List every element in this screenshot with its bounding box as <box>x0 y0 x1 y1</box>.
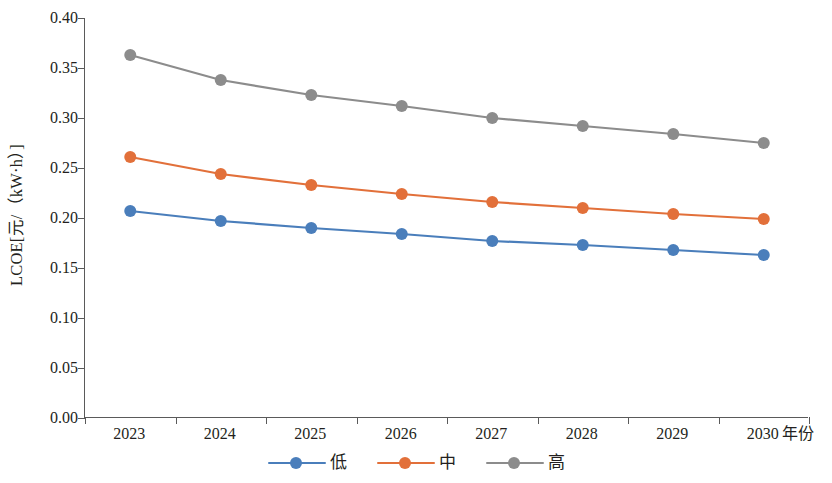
x-axis-tick <box>719 417 720 424</box>
y-tick-label: 0.15 <box>32 260 78 276</box>
legend-swatch <box>268 456 326 470</box>
y-axis-tick <box>78 318 85 319</box>
legend-marker-icon <box>399 457 411 469</box>
y-tick-label: 0.10 <box>32 310 78 326</box>
data-point <box>758 213 770 225</box>
y-axis-tick <box>78 18 85 19</box>
x-tick-label: 2027 <box>451 424 531 443</box>
x-tick-label: 2026 <box>361 424 441 443</box>
data-point <box>124 151 136 163</box>
x-axis-tick <box>628 417 629 424</box>
x-axis-tick <box>176 417 177 424</box>
data-point <box>396 188 408 200</box>
line-chart: LCOE[元/（kW·h）] 0.400.350.300.250.200.150… <box>0 0 832 483</box>
data-point <box>396 228 408 240</box>
plot-area <box>85 18 808 417</box>
x-axis-tick <box>266 417 267 424</box>
y-axis-tick-labels: 0.400.350.300.250.200.150.100.050.00 <box>28 0 78 483</box>
legend-marker-icon <box>508 457 520 469</box>
x-axis-tick <box>85 417 86 424</box>
data-point <box>758 137 770 149</box>
x-tick-label: 2023 <box>89 424 169 443</box>
plot-frame <box>84 18 808 418</box>
data-point <box>486 112 498 124</box>
y-axis-tick <box>78 368 85 369</box>
y-tick-label: 0.00 <box>32 410 78 426</box>
series-lines <box>85 18 809 418</box>
legend-swatch <box>486 456 544 470</box>
y-axis-tick <box>78 168 85 169</box>
chart-legend: 低中高 <box>0 454 832 471</box>
x-tick-label: 2029 <box>632 424 712 443</box>
data-point <box>486 196 498 208</box>
y-tick-label: 0.05 <box>32 360 78 376</box>
data-point <box>758 249 770 261</box>
series-1 <box>124 151 770 225</box>
data-point <box>577 239 589 251</box>
series-line <box>130 157 764 219</box>
x-axis-tick <box>538 417 539 424</box>
x-tick-label: 2025 <box>270 424 350 443</box>
data-point <box>215 168 227 180</box>
legend-item[interactable]: 高 <box>486 454 565 471</box>
data-point <box>667 128 679 140</box>
y-tick-label: 0.30 <box>32 110 78 126</box>
y-axis-title: LCOE[元/（kW·h）] <box>0 0 30 430</box>
y-tick-label: 0.35 <box>32 60 78 76</box>
data-point <box>577 202 589 214</box>
series-2 <box>124 49 770 149</box>
x-axis-tick-labels: 20232024202520262027202820292030 <box>84 424 808 452</box>
y-tick-label: 0.40 <box>32 10 78 26</box>
legend-label: 高 <box>548 454 565 471</box>
data-point <box>305 179 317 191</box>
y-axis-tick <box>78 268 85 269</box>
y-axis-tick <box>78 218 85 219</box>
y-axis-title-text: LCOE[元/（kW·h）] <box>3 144 27 286</box>
series-line <box>130 55 764 143</box>
x-axis-tick <box>447 417 448 424</box>
legend-marker-icon <box>290 457 302 469</box>
legend-label: 低 <box>330 454 347 471</box>
legend-item[interactable]: 中 <box>377 454 456 471</box>
x-axis-tick <box>357 417 358 424</box>
legend-item[interactable]: 低 <box>268 454 347 471</box>
data-point <box>124 205 136 217</box>
x-axis-title: 年份 <box>782 424 814 443</box>
y-tick-label: 0.25 <box>32 160 78 176</box>
data-point <box>305 89 317 101</box>
data-point <box>396 100 408 112</box>
data-point <box>667 208 679 220</box>
data-point <box>486 235 498 247</box>
data-point <box>667 244 679 256</box>
data-point <box>124 49 136 61</box>
legend-label: 中 <box>439 454 456 471</box>
data-point <box>215 74 227 86</box>
x-tick-label: 2024 <box>180 424 260 443</box>
y-tick-label: 0.20 <box>32 210 78 226</box>
data-point <box>577 120 589 132</box>
legend-swatch <box>377 456 435 470</box>
y-axis-tick <box>78 68 85 69</box>
data-point <box>215 215 227 227</box>
y-axis-tick <box>78 418 85 419</box>
y-axis-tick <box>78 118 85 119</box>
data-point <box>305 222 317 234</box>
x-axis-tick <box>809 417 810 424</box>
x-tick-label: 2028 <box>542 424 622 443</box>
